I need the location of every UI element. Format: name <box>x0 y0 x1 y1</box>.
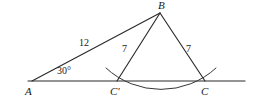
segment-ab <box>32 13 160 81</box>
length-label-ab: 12 <box>79 38 89 48</box>
geometry-diagram: A B C′ C 12 7 7 30° <box>0 0 255 110</box>
length-label-bc: 7 <box>186 44 191 54</box>
angle-label-a: 30° <box>57 66 71 76</box>
vertex-label-c: C <box>201 86 208 97</box>
segment-bc <box>160 13 205 81</box>
length-label-bc-prime: 7 <box>122 44 127 54</box>
vertex-label-a: A <box>25 86 32 97</box>
diagram-canvas <box>0 0 255 110</box>
vertex-label-b: B <box>158 0 165 11</box>
vertex-label-c-prime: C′ <box>110 86 120 97</box>
